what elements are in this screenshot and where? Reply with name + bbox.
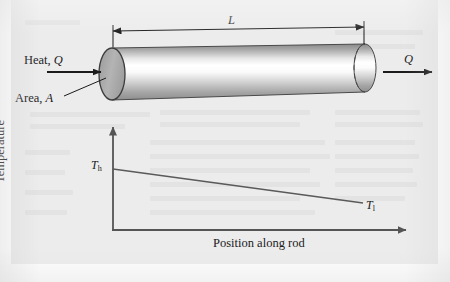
rod-left-cap-area bbox=[99, 48, 125, 100]
y-axis-label: Temperature bbox=[0, 83, 7, 183]
chart-axes bbox=[112, 127, 406, 231]
area-leader-line bbox=[64, 78, 106, 96]
area-symbol: A bbox=[46, 91, 54, 105]
length-dimension-arrow bbox=[113, 21, 364, 47]
heat-in-label: Heat, Q bbox=[24, 54, 63, 67]
t-low-label: Tl bbox=[366, 199, 375, 213]
t-hot-label: Th bbox=[91, 159, 102, 173]
rod-cylinder bbox=[99, 44, 376, 100]
heat-in-symbol: Q bbox=[54, 53, 63, 67]
x-axis-label: Position along rod bbox=[213, 237, 305, 250]
rod-body bbox=[112, 44, 365, 100]
figure-root: Heat, Q Area, A L Q Th Tl Position along… bbox=[0, 0, 450, 282]
temperature-profile-line bbox=[113, 169, 363, 203]
area-label: Area, A bbox=[15, 92, 53, 105]
heat-out-label: Q bbox=[404, 53, 413, 66]
length-label: L bbox=[228, 14, 235, 27]
